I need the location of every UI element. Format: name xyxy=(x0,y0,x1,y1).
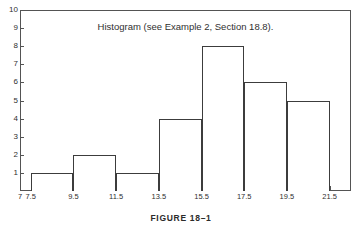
y-tick-label: 8 xyxy=(14,42,18,50)
y-tick-mark xyxy=(20,10,24,11)
x-tick-label: 11.5 xyxy=(109,193,123,201)
histogram-bar xyxy=(159,119,202,191)
x-tick-label: 17.5 xyxy=(237,193,252,201)
x-tick-label: 19.5 xyxy=(280,193,295,201)
y-tick-label: 9 xyxy=(14,24,18,32)
y-tick-mark xyxy=(20,155,24,156)
histogram-bar xyxy=(287,101,330,192)
y-tick-label: 1 xyxy=(14,169,18,177)
y-tick-mark xyxy=(20,64,24,65)
chart-title: Histogram (see Example 2, Section 18.8). xyxy=(20,21,351,32)
histogram-bar xyxy=(244,82,287,191)
y-tick-label: 4 xyxy=(14,115,18,123)
y-tick-label: 10 xyxy=(9,6,18,14)
x-tick-label: 15.5 xyxy=(194,193,209,201)
x-tick-mark xyxy=(20,186,21,191)
y-tick-label: 5 xyxy=(14,97,18,105)
x-tick-label: 7.5 xyxy=(25,193,35,201)
histogram-bar xyxy=(31,173,74,191)
y-tick-mark xyxy=(20,101,24,102)
y-tick-mark xyxy=(20,173,24,174)
page-text-bleed xyxy=(95,0,275,2)
y-tick-label: 7 xyxy=(14,60,18,68)
y-tick-label: 3 xyxy=(14,133,18,141)
x-tick-label: 13.5 xyxy=(151,193,166,201)
x-tick-mark xyxy=(330,186,331,191)
y-tick-label: 6 xyxy=(14,78,18,86)
histogram-chart: Histogram (see Example 2, Section 18.8).… xyxy=(20,10,351,191)
y-tick-mark xyxy=(20,46,24,47)
y-tick-mark xyxy=(20,82,24,83)
y-tick-mark xyxy=(20,28,24,29)
x-tick-label: 7 xyxy=(18,193,22,201)
histogram-bar xyxy=(116,173,159,191)
histogram-bar xyxy=(202,46,245,191)
y-tick-mark xyxy=(20,119,24,120)
x-tick-label: 9.5 xyxy=(68,193,78,201)
histogram-bar xyxy=(73,155,116,191)
x-tick-label: 21.5 xyxy=(322,193,337,201)
y-tick-label: 2 xyxy=(14,151,18,159)
figure-18-1: Histogram (see Example 2, Section 18.8).… xyxy=(0,0,362,233)
y-tick-mark xyxy=(20,137,24,138)
figure-caption: FIGURE 18–1 xyxy=(0,213,362,223)
